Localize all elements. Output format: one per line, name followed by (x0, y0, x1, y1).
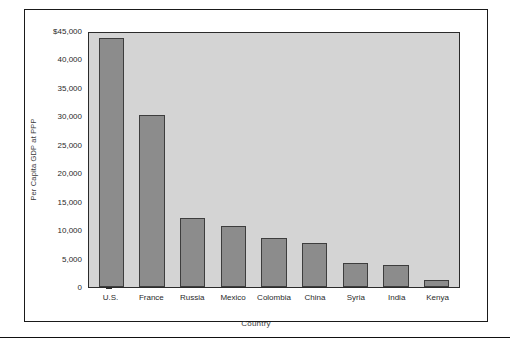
y-tick-label: 30,000 (58, 112, 82, 122)
x-tick-label-colombia: Colombia (254, 293, 295, 302)
x-tick-label-u-s: U.S. (90, 293, 131, 302)
bar-slot (335, 33, 376, 287)
bar-slot (91, 33, 132, 287)
x-tick-label-china: China (294, 293, 335, 302)
bar-colombia[interactable] (261, 238, 286, 287)
bar-france[interactable] (139, 115, 164, 287)
bar-u-s[interactable] (99, 38, 124, 287)
y-tick-label: 25,000 (58, 141, 82, 151)
bar-series (89, 33, 459, 287)
y-tick-label: 10,000 (58, 226, 82, 236)
y-axis-tick-group: 05,00010,00015,00020,00025,00030,00035,0… (24, 0, 82, 353)
x-axis-title: Country (62, 319, 450, 328)
x-tick-label-kenya: Kenya (417, 293, 458, 302)
y-tick-mark (106, 288, 112, 289)
bar-slot (213, 33, 254, 287)
x-axis-tick-labels: U.S.FranceRussiaMexicoColombiaChinaSyria… (88, 293, 460, 302)
bottom-divider (0, 337, 510, 338)
bar-kenya[interactable] (424, 280, 449, 287)
y-tick-label: 5,000 (62, 255, 82, 265)
bar-russia[interactable] (180, 218, 205, 287)
bar-slot (416, 33, 457, 287)
bar-mexico[interactable] (221, 226, 246, 287)
y-tick-label: 15,000 (58, 198, 82, 208)
plot-area (88, 32, 460, 288)
y-tick-label: 35,000 (58, 84, 82, 94)
bar-china[interactable] (302, 243, 327, 287)
bar-slot (172, 33, 213, 287)
bar-syria[interactable] (343, 263, 368, 287)
x-tick-label-mexico: Mexico (213, 293, 254, 302)
y-tick-label: $45,000 (53, 27, 82, 37)
x-tick-label-india: India (376, 293, 417, 302)
figure: Per Capita GDP at PPP 05,00010,00015,000… (0, 0, 510, 353)
bar-india[interactable] (383, 265, 408, 287)
bar-slot (376, 33, 417, 287)
x-tick-label-france: France (131, 293, 172, 302)
y-tick-label: 0 (78, 283, 82, 293)
y-tick-label: 40,000 (58, 55, 82, 65)
bar-slot (254, 33, 295, 287)
y-tick-label: 20,000 (58, 169, 82, 179)
bar-slot (132, 33, 173, 287)
x-tick-label-russia: Russia (172, 293, 213, 302)
x-tick-label-syria: Syria (335, 293, 376, 302)
bar-slot (294, 33, 335, 287)
